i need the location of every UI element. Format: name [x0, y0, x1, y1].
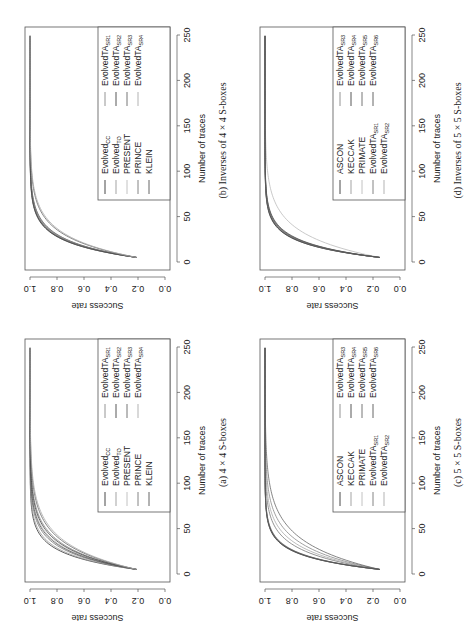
- y-tick-label: 0.0: [159, 596, 172, 606]
- legend-label-name: EvolvedTA: [122, 357, 132, 398]
- legend-label-name: EvolvedTA: [335, 357, 345, 398]
- legend-label: ASCON: [335, 144, 345, 174]
- legend-label-subscript: SR6: [373, 347, 379, 358]
- x-tick-label: 100: [182, 476, 192, 491]
- legend-label-subscript: SR1: [373, 123, 379, 134]
- legend-label-name: EvolvedTA: [357, 45, 367, 86]
- x-tick-label: 150: [417, 430, 427, 445]
- legend-label-subscript: SR3: [127, 35, 133, 46]
- x-axis-label: Number of traces: [197, 425, 207, 495]
- y-tick-label: 0.0: [394, 284, 407, 294]
- y-tick-label: 1.0: [259, 284, 272, 294]
- legend-label-subscript: SR5: [362, 347, 368, 358]
- y-tick-label: 0.6: [78, 596, 91, 606]
- y-tick-label: 0.0: [394, 596, 407, 606]
- legend-label-name: EvolvedTA: [122, 45, 132, 86]
- legend-label: ASCON: [335, 456, 345, 486]
- legend-label-name: Evolved: [100, 143, 110, 174]
- chart-d: 050100150200250Number of traces0.00.20.4…: [235, 0, 470, 312]
- y-tick-label: 0.4: [340, 596, 353, 606]
- x-tick-label: 150: [417, 118, 427, 133]
- y-axis-label: Success rate: [71, 613, 123, 623]
- x-tick-label: 200: [182, 73, 192, 88]
- legend-label-subscript: SR4: [351, 35, 357, 46]
- legend-label-name: EvolvedTA: [133, 45, 143, 86]
- x-tick-label: 250: [417, 27, 427, 42]
- legend-label-subscript: SR2: [384, 123, 390, 134]
- y-tick-label: 0.6: [78, 284, 91, 294]
- legend-label: KECCAK: [346, 451, 356, 486]
- y-tick-label: 0.8: [286, 284, 299, 294]
- x-tick-label: 250: [182, 339, 192, 354]
- y-tick-label: 0.4: [340, 284, 353, 294]
- x-tick-label: 50: [182, 212, 192, 222]
- legend-label-name: EvolvedTA: [335, 45, 345, 86]
- panel-b: 050100150200250Number of traces0.00.20.4…: [0, 0, 235, 312]
- y-tick-label: 1.0: [24, 284, 37, 294]
- x-axis-label: Number of traces: [432, 425, 442, 495]
- legend-label-name: EvolvedTA: [346, 45, 356, 86]
- x-tick-label: 200: [417, 73, 427, 88]
- legend-label: KECCAK: [346, 139, 356, 174]
- x-tick-label: 0: [417, 259, 427, 264]
- legend-label-name: PRIMATE: [357, 137, 367, 174]
- legend-label-name: KLEIN: [144, 461, 154, 486]
- legend-label-name: EvolvedTA: [357, 357, 367, 398]
- y-tick-label: 0.6: [313, 284, 326, 294]
- y-tick-label: 0.8: [286, 596, 299, 606]
- legend-label-subscript: SR1: [105, 35, 111, 46]
- legend-label-subscript: SR2: [116, 347, 122, 358]
- legend-label-subscript: CC: [105, 136, 111, 144]
- legend-label-subscript: SR4: [351, 347, 357, 358]
- legend-label-name: EvolvedTA: [379, 133, 389, 174]
- y-tick-label: 0.6: [313, 596, 326, 606]
- legend-label-subscript: SR3: [340, 347, 346, 358]
- legend-label: KLEIN: [144, 149, 154, 174]
- x-tick-label: 200: [182, 385, 192, 400]
- x-tick-label: 0: [182, 571, 192, 576]
- legend-label-name: EvolvedTA: [368, 133, 378, 174]
- x-tick-label: 100: [182, 164, 192, 179]
- legend-label-name: PRIMATE: [357, 449, 367, 486]
- y-tick-label: 0.4: [105, 284, 118, 294]
- legend-label-subscript: SR1: [373, 435, 379, 446]
- legend-label-subscript: SR2: [384, 435, 390, 446]
- y-tick-label: 0.4: [105, 596, 118, 606]
- legend-label-name: EvolvedTA: [100, 45, 110, 86]
- x-tick-label: 0: [182, 259, 192, 264]
- x-tick-label: 0: [417, 571, 427, 576]
- x-tick-label: 250: [417, 339, 427, 354]
- y-tick-label: 0.8: [51, 596, 64, 606]
- y-tick-label: 0.2: [367, 284, 380, 294]
- legend-label-subscript: CC: [105, 448, 111, 456]
- y-tick-label: 0.2: [132, 596, 145, 606]
- legend-label-subscript: SR3: [340, 35, 346, 46]
- x-axis-label: Number of traces: [432, 113, 442, 183]
- legend-label-subscript: SR3: [127, 347, 133, 358]
- legend-label-subscript: SR2: [116, 35, 122, 46]
- x-tick-label: 50: [417, 212, 427, 222]
- figure-caption: (a) 4 × 4 S-boxes: [217, 418, 229, 487]
- legend-label-name: EvolvedTA: [100, 357, 110, 398]
- y-tick-label: 0.2: [132, 284, 145, 294]
- y-tick-label: 0.0: [159, 284, 172, 294]
- chart-a: 050100150200250Number of traces0.00.20.4…: [0, 312, 235, 624]
- x-tick-label: 50: [182, 524, 192, 534]
- legend-label: PRINCE: [133, 454, 143, 486]
- panel-a: 050100150200250Number of traces0.00.20.4…: [0, 312, 235, 624]
- legend-label-name: ASCON: [335, 144, 345, 174]
- figure-caption: (b) Inverses of 4 × 4 S-boxes: [217, 82, 229, 198]
- legend-label-name: KECCAK: [346, 139, 356, 174]
- legend-label: PRIMATE: [357, 137, 367, 174]
- x-axis-label: Number of traces: [197, 113, 207, 183]
- legend-label: KLEIN: [144, 461, 154, 486]
- legend-label-name: EvolvedTA: [111, 357, 121, 398]
- legend-label-subscript: SR4: [138, 347, 144, 358]
- x-tick-label: 150: [182, 118, 192, 133]
- legend-label-subscript: SR5: [362, 35, 368, 46]
- legend-label-name: PRESENT: [122, 134, 132, 174]
- figure-caption: (c) 5 × 5 S-boxes: [452, 418, 464, 487]
- y-axis-label: Success rate: [306, 613, 358, 623]
- legend-label-subscript: SR6: [373, 35, 379, 46]
- legend-label-name: EvolvedTA: [133, 357, 143, 398]
